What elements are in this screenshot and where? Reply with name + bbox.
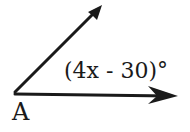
lower-ray (15, 94, 170, 96)
angle-measure-label: (4x - 30)° (64, 58, 168, 83)
vertex-label: A (12, 98, 29, 126)
angle-diagram: (4x - 30)° A (0, 0, 190, 132)
